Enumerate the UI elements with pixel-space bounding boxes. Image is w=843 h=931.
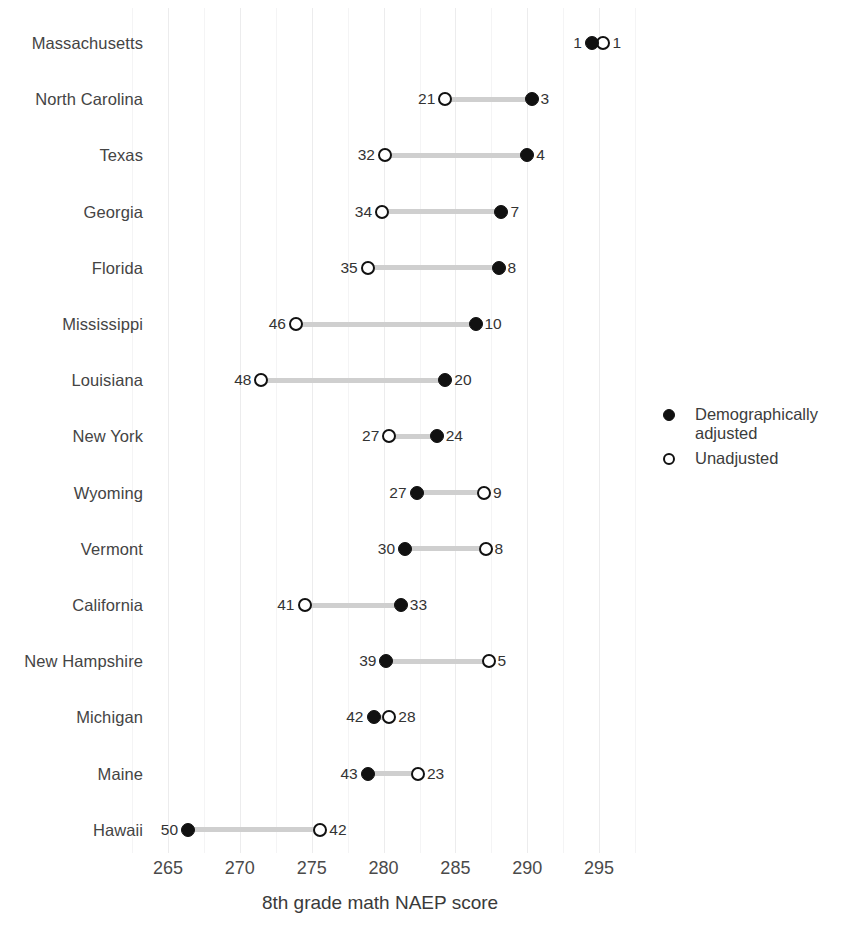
unadjusted-dot	[289, 317, 303, 331]
adjusted-dot	[520, 148, 534, 162]
state-label: California	[0, 596, 143, 615]
x-axis: 265270275280285290295	[0, 858, 843, 888]
rank-label-right: 3	[541, 90, 550, 108]
rank-label-right: 42	[329, 821, 346, 839]
adjusted-dot	[430, 429, 444, 443]
chart-row: Michigan4228	[0, 702, 843, 732]
unadjusted-dot	[313, 823, 327, 837]
x-tick-label: 285	[440, 858, 470, 879]
rank-label-right: 33	[410, 596, 427, 614]
chart-row: Mississippi4610	[0, 309, 843, 339]
connector-line	[261, 378, 445, 383]
unadjusted-dot	[361, 261, 375, 275]
legend-label-adjusted: Demographically adjusted	[695, 405, 843, 443]
state-label: Louisiana	[0, 371, 143, 390]
chart-row: Hawaii5042	[0, 815, 843, 845]
rank-label-left: 21	[418, 90, 435, 108]
unadjusted-dot	[375, 205, 389, 219]
x-tick-label: 295	[584, 858, 614, 879]
unadjusted-dot	[477, 486, 491, 500]
adjusted-dot	[394, 598, 408, 612]
connector-line	[385, 153, 527, 158]
rank-label-right: 23	[427, 765, 444, 783]
rank-label-left: 1	[573, 34, 582, 52]
rank-label-left: 27	[362, 427, 379, 445]
state-label: Maine	[0, 764, 143, 783]
adjusted-dot	[410, 486, 424, 500]
rank-label-left: 46	[269, 315, 286, 333]
rank-label-left: 41	[277, 596, 294, 614]
chart-row: North Carolina213	[0, 84, 843, 114]
unadjusted-dot	[482, 654, 496, 668]
rank-label-right: 8	[508, 259, 517, 277]
rank-label-left: 27	[389, 484, 406, 502]
connector-line	[386, 659, 488, 664]
rank-label-right: 8	[495, 540, 504, 558]
rank-label-right: 20	[454, 371, 471, 389]
rank-label-right: 4	[536, 146, 545, 164]
filled-circle-icon	[663, 409, 675, 421]
connector-line	[296, 322, 476, 327]
chart-row: Wyoming279	[0, 478, 843, 508]
rank-label-right: 7	[510, 203, 519, 221]
adjusted-dot	[585, 36, 599, 50]
adjusted-dot	[469, 317, 483, 331]
rank-label-left: 35	[340, 259, 357, 277]
chart-row: Massachusetts11	[0, 28, 843, 58]
rank-label-left: 32	[358, 146, 375, 164]
state-label: North Carolina	[0, 90, 143, 109]
chart-row: Georgia347	[0, 197, 843, 227]
x-tick-label: 270	[225, 858, 255, 879]
unadjusted-dot	[378, 148, 392, 162]
chart-row: Louisiana4820	[0, 365, 843, 395]
adjusted-dot	[492, 261, 506, 275]
unadjusted-dot	[298, 598, 312, 612]
unadjusted-dot	[254, 373, 268, 387]
connector-line	[368, 265, 499, 270]
connector-line	[382, 209, 501, 214]
x-tick-label: 275	[297, 858, 327, 879]
unadjusted-dot	[479, 542, 493, 556]
connector-line	[188, 827, 320, 832]
unadjusted-dot	[382, 429, 396, 443]
unadjusted-dot	[382, 710, 396, 724]
state-label: Hawaii	[0, 820, 143, 839]
connector-line	[445, 97, 531, 102]
rank-label-right: 10	[485, 315, 502, 333]
x-tick-label: 280	[368, 858, 398, 879]
legend-item-adjusted: Demographically adjusted	[655, 405, 843, 443]
unadjusted-dot	[411, 767, 425, 781]
state-label: Florida	[0, 258, 143, 277]
adjusted-dot	[367, 710, 381, 724]
state-label: New Hampshire	[0, 652, 143, 671]
state-label: Vermont	[0, 539, 143, 558]
rank-label-right: 1	[612, 34, 621, 52]
state-label: Michigan	[0, 708, 143, 727]
chart-row: Texas324	[0, 140, 843, 170]
open-circle-icon	[663, 453, 675, 465]
connector-line	[405, 546, 486, 551]
state-label: Wyoming	[0, 483, 143, 502]
legend-item-unadjusted: Unadjusted	[655, 449, 843, 469]
rank-label-right: 24	[446, 427, 463, 445]
rank-label-left: 39	[359, 652, 376, 670]
x-tick-label: 290	[512, 858, 542, 879]
state-label: Texas	[0, 146, 143, 165]
rank-label-right: 28	[398, 708, 415, 726]
rank-label-right: 9	[493, 484, 502, 502]
state-label: New York	[0, 427, 143, 446]
adjusted-dot	[438, 373, 452, 387]
x-axis-title: 8th grade math NAEP score	[0, 892, 760, 914]
rank-label-right: 5	[498, 652, 507, 670]
adjusted-dot	[181, 823, 195, 837]
legend: Demographically adjusted Unadjusted	[655, 405, 843, 475]
chart-row: California4133	[0, 590, 843, 620]
adjusted-dot	[379, 654, 393, 668]
state-label: Massachusetts	[0, 34, 143, 53]
unadjusted-dot	[438, 92, 452, 106]
adjusted-dot	[361, 767, 375, 781]
chart-row: New Hampshire395	[0, 646, 843, 676]
rank-label-left: 42	[346, 708, 363, 726]
chart-row: Maine4323	[0, 759, 843, 789]
naep-dumbbell-chart: Massachusetts11North Carolina213Texas324…	[0, 0, 843, 931]
